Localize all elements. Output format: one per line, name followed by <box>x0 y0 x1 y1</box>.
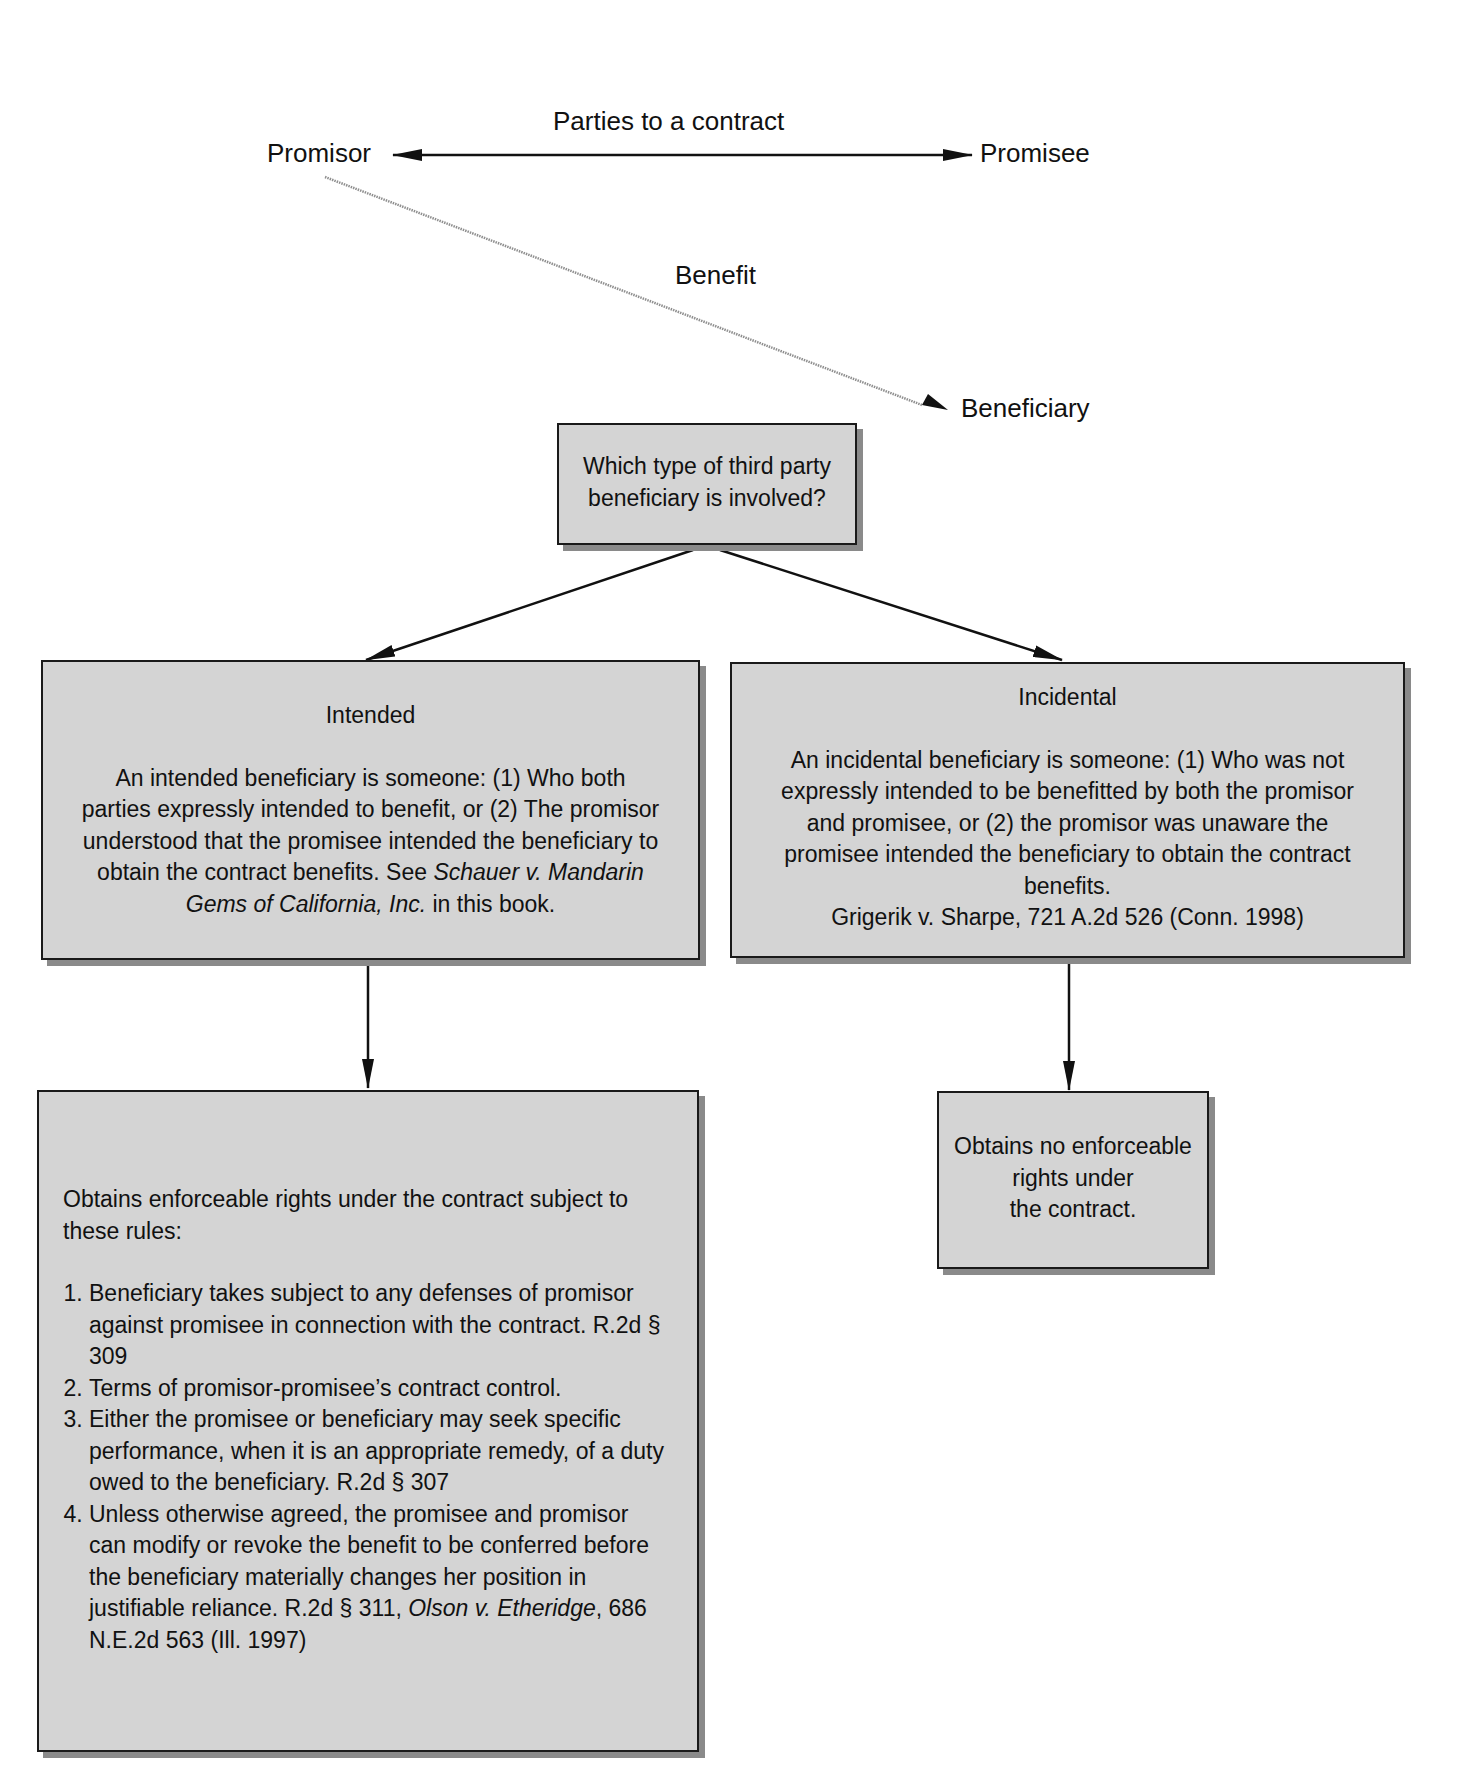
rule-item: Either the promisee or beneficiary may s… <box>89 1404 669 1499</box>
incidental-result-box: Obtains no enforceable rights under the … <box>937 1091 1209 1269</box>
intended-definition: An intended beneficiary is someone: (1) … <box>79 763 662 921</box>
intended-result-intro: Obtains enforceable rights under the con… <box>63 1184 669 1247</box>
benefit-label: Benefit <box>675 260 756 291</box>
incidental-result-line-3: the contract. <box>939 1194 1207 1226</box>
incidental-citation: Grigerik v. Sharpe, 721 A.2d 526 (Conn. … <box>766 902 1369 934</box>
incidental-result-line-1: Obtains no enforceable <box>939 1131 1207 1163</box>
intended-title: Intended <box>79 700 662 732</box>
incidental-result-line-2: rights under <box>939 1163 1207 1195</box>
rule-4-case: Olson v. Etheridge <box>408 1595 596 1621</box>
rule-item: Terms of promisor-promisee’s contract co… <box>89 1373 669 1405</box>
benefit-arrow <box>325 177 922 405</box>
incidental-box: Incidental An incidental beneficiary is … <box>730 662 1405 958</box>
parties-label: Parties to a contract <box>553 106 784 137</box>
question-line-2: beneficiary is involved? <box>559 483 855 515</box>
beneficiary-label: Beneficiary <box>961 393 1090 424</box>
incidental-body: An incidental beneficiary is someone: (1… <box>766 745 1369 903</box>
intended-box: Intended An intended beneficiary is some… <box>41 660 700 960</box>
arrow-to-incidental <box>720 550 1062 660</box>
intended-result-box: Obtains enforceable rights under the con… <box>37 1090 699 1752</box>
rule-item: Beneficiary takes subject to any defense… <box>89 1278 669 1373</box>
promisor-label: Promisor <box>267 138 371 169</box>
question-box: Which type of third party beneficiary is… <box>557 423 857 545</box>
rules-list: Beneficiary takes subject to any defense… <box>63 1278 669 1656</box>
intended-tail: in this book. <box>426 891 555 917</box>
question-line-1: Which type of third party <box>559 451 855 483</box>
promisee-label: Promisee <box>980 138 1090 169</box>
arrow-to-intended <box>366 550 693 660</box>
incidental-title: Incidental <box>766 682 1369 714</box>
rule-item: Unless otherwise agreed, the promisee an… <box>89 1499 669 1657</box>
